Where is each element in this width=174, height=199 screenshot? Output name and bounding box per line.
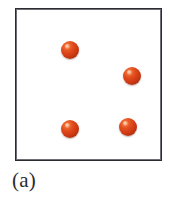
particle-sphere-1 bbox=[61, 41, 79, 59]
particle-sphere-3 bbox=[61, 120, 79, 138]
particle-sphere-2 bbox=[123, 67, 141, 85]
specular-highlight-icon bbox=[65, 123, 70, 128]
specular-highlight-icon bbox=[65, 44, 70, 49]
figure-caption-label: (a) bbox=[12, 167, 36, 193]
figure-panel-a: (a) bbox=[0, 0, 174, 199]
particle-container-box bbox=[15, 8, 162, 161]
particle-sphere-4 bbox=[119, 118, 137, 136]
specular-highlight-icon bbox=[123, 121, 128, 126]
specular-highlight-icon bbox=[127, 70, 132, 75]
